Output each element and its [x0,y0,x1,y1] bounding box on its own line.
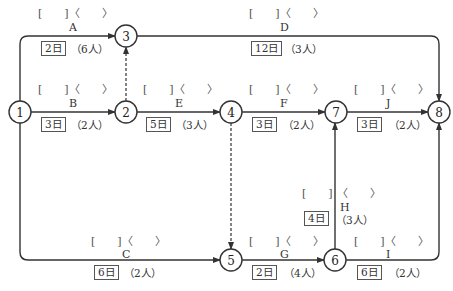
activity-d-workers: （3人） [285,44,322,55]
activity-c-name: C [122,249,130,260]
node-2: 2 [115,101,137,123]
activity-e-workers: （3人） [176,120,213,131]
svg-text:2: 2 [122,106,130,120]
activity-d-duration: 12日 [251,41,282,56]
activity-b-blank: [ ]〈 〉 [38,84,113,95]
activity-j-workers: （2人） [389,120,426,131]
svg-text:8: 8 [435,106,443,120]
activity-a-workers: （6人） [71,44,108,55]
activity-j-name: J [386,98,390,109]
activity-h-name: H [340,202,350,213]
activity-b-workers: （2人） [71,120,108,131]
activity-c-blank: [ ]〈 〉 [91,236,166,247]
activity-j-blank: [ ]〈 〉 [354,84,429,95]
activity-j-duration: 3日 [357,117,382,132]
activity-c-duration: 6日 [94,265,119,280]
activity-h-workers: （3人） [336,215,373,226]
activity-d-blank: [ ]〈 〉 [249,8,324,19]
node-4: 4 [220,101,242,123]
activity-f-duration: 3日 [252,117,277,132]
activity-f-name: F [280,98,288,109]
activity-e-duration: 5日 [146,117,171,132]
svg-text:4: 4 [227,106,235,120]
activity-e-blank: [ ]〈 〉 [143,84,218,95]
svg-text:6: 6 [331,254,339,268]
activity-i-name: I [386,249,390,260]
activity-a-duration: 2日 [41,41,66,56]
activity-d-name: D [280,22,289,33]
activity-a-name: A [69,22,77,33]
activity-g-duration: 2日 [252,265,277,280]
activity-a-blank: [ ]〈 〉 [38,8,113,19]
activity-i-workers: （2人） [389,268,426,279]
network-diagram: 1 2 3 4 5 6 7 8 [ ]〈 〉 A 2日 （6人） [ ]〈 〉 … [0,0,453,291]
activity-f-blank: [ ]〈 〉 [249,84,324,95]
node-5: 5 [220,249,242,271]
svg-text:5: 5 [227,254,235,268]
node-6: 6 [324,249,346,271]
activity-h-blank-right: 〈 〉 [337,188,381,199]
svg-text:1: 1 [16,106,24,120]
activity-b-duration: 3日 [41,117,66,132]
node-3: 3 [115,25,137,47]
svg-text:7: 7 [332,106,340,120]
activity-h-duration: 4日 [304,211,329,226]
activity-h-blank-left: [ ] [302,188,333,199]
activity-g-blank: [ ]〈 〉 [249,236,324,247]
node-8: 8 [428,101,450,123]
activity-i-duration: 6日 [357,265,382,280]
activity-i-blank: [ ]〈 〉 [354,236,429,247]
node-1: 1 [9,101,31,123]
activity-f-workers: （2人） [283,120,320,131]
activity-g-name: G [280,249,289,260]
activity-e-name: E [175,98,183,109]
svg-text:3: 3 [122,30,130,44]
activity-c-workers: （2人） [124,268,161,279]
node-7: 7 [325,101,347,123]
activity-b-name: B [69,98,77,109]
activity-g-workers: （4人） [284,268,321,279]
